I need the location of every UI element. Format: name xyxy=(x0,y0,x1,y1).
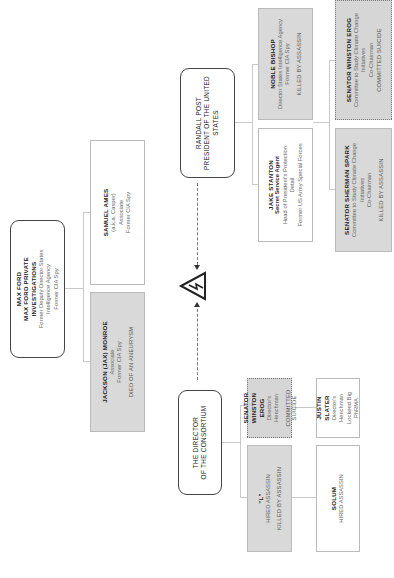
node-line: Director's Henchman xyxy=(331,383,346,433)
node-name: NOBLE BISHOP xyxy=(269,39,277,89)
node-name: SENATOR WINSTON EROG xyxy=(242,383,265,433)
node-line: Lockeed Big PhRMA xyxy=(346,383,361,433)
node-senator-winston-erog-henchman: SENATOR WINSTON EROG Director's Henchman… xyxy=(247,378,292,438)
node-name: SENATOR SHERMAN SPARK xyxy=(343,145,351,235)
node-line: Director States Intelligence Agency xyxy=(277,19,285,109)
node-line: Initiatives xyxy=(359,178,367,202)
node-name: SAMUEL AMES xyxy=(102,189,110,237)
connector xyxy=(240,497,247,498)
node-name: JAKE STANTON xyxy=(267,160,275,210)
node-name: RANDALL POST xyxy=(195,97,203,149)
org-chart-diagram: MAX FORD MAX FORD PRIVATE INVESTIGATIONS… xyxy=(0,0,394,578)
node-line: Director's Henchman xyxy=(266,383,281,433)
connector xyxy=(313,122,329,123)
node-line: (a.k.a. Casper) xyxy=(110,193,118,231)
connector xyxy=(83,212,90,213)
node-line: Head of President's Protection xyxy=(282,146,290,224)
node-line: Associate xyxy=(109,349,117,374)
arrow-head xyxy=(194,265,200,270)
node-title: STATES xyxy=(212,110,220,136)
node-name: SOLUM xyxy=(330,487,338,510)
connector xyxy=(83,361,90,362)
node-line: Committee to Study Climate Change xyxy=(353,13,361,107)
connector xyxy=(292,497,316,498)
connector xyxy=(329,60,330,190)
connector xyxy=(240,405,241,498)
node-title: PRESIDENT OF THE UNITED xyxy=(203,76,211,170)
node-name: "L" xyxy=(257,493,265,503)
node-noble-bishop: NOBLE BISHOP Director States Intelligenc… xyxy=(258,8,313,120)
node-line: Intelligence Agency xyxy=(45,264,53,314)
node-senator-winston-erog-committee: SENATOR WINSTON EROG Committee to Study … xyxy=(335,0,392,120)
node-solum: SOLUM HIRED ASSASSIN xyxy=(316,445,360,552)
node-justin-slater: JUSTIN SLATER Director's Henchman Lockee… xyxy=(316,378,360,438)
node-director: THE DIRECTOR OF THE CONSORTIUM xyxy=(178,390,222,495)
node-line: Co-Chairman xyxy=(368,43,376,77)
node-max-ford: MAX FORD MAX FORD PRIVATE INVESTIGATIONS… xyxy=(10,220,65,358)
connector xyxy=(83,212,84,362)
node-status: KILLED BY ASSASSIN xyxy=(276,467,282,530)
node-title: OF THE CONSORTIUM xyxy=(200,406,208,480)
node-role: Secret Service Agent xyxy=(274,156,282,214)
node-line: Detail xyxy=(289,178,297,193)
node-line: Former CIA Spy xyxy=(53,268,61,309)
arrow-head xyxy=(194,302,200,307)
node-name: JACKSON (JAX) MONROE xyxy=(101,321,109,403)
node-jackson-monroe: JACKSON (JAX) MONROE Associate Former CI… xyxy=(90,292,145,432)
node-line: HIRED ASSASSIN xyxy=(265,474,273,522)
node-line: Former Deputy Director States xyxy=(38,250,46,329)
node-randall-post: RANDALL POST PRESIDENT OF THE UNITED STA… xyxy=(180,68,235,178)
node-line: Initiatives xyxy=(360,48,368,72)
conflict-line-left xyxy=(197,304,198,380)
node-status: KILLED BY ASSASSIN xyxy=(378,158,384,221)
node-line: Former CIA Spy xyxy=(125,192,133,233)
node-jake-stanton: JAKE STANTON Secret Service Agent Head o… xyxy=(258,128,313,242)
node-senator-sherman-spark: SENATOR SHERMAN SPARK Committee to Study… xyxy=(335,128,392,252)
node-line: Committee to Study Climate Change xyxy=(351,143,359,237)
node-name: MAX FORD xyxy=(15,272,23,307)
node-line: Former US Army Special Forces xyxy=(297,143,305,226)
node-l: "L" HIRED ASSASSIN KILLED BY ASSASSIN xyxy=(247,445,292,552)
node-org: MAX FORD PRIVATE INVESTIGATIONS xyxy=(22,244,38,334)
node-line: Former CIA Spy xyxy=(284,43,292,84)
node-line: Co-Chairman xyxy=(366,173,374,207)
node-line: Associate xyxy=(118,200,126,225)
node-title: THE DIRECTOR xyxy=(192,417,200,468)
connector xyxy=(235,122,252,123)
high-voltage-warning-icon xyxy=(178,271,208,301)
node-name: SENATOR WINSTON EROG xyxy=(345,18,353,102)
connector xyxy=(65,288,83,289)
connector xyxy=(222,442,240,443)
node-status: COMMITTED SUICIDE xyxy=(376,28,382,92)
node-line: HIRED ASSASSIN xyxy=(338,474,346,522)
node-name: JUSTIN SLATER xyxy=(315,383,331,433)
node-status: DIED OF AN ANEURYSM xyxy=(128,327,134,398)
node-samuel-ames: SAMUEL AMES (a.k.a. Casper) Associate Fo… xyxy=(90,140,145,285)
node-status: KILLED BY ASSASSIN xyxy=(296,32,302,95)
connector xyxy=(252,64,253,185)
node-line: Former CIA Spy xyxy=(116,341,124,382)
node-status: COMMITTED SUICIDE xyxy=(285,383,297,433)
conflict-line-right xyxy=(197,183,198,265)
